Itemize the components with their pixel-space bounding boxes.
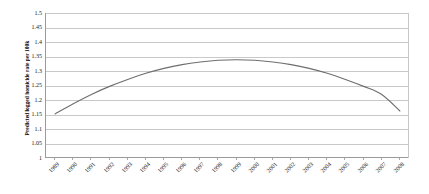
y-axis-tick-label: 1.5 <box>26 10 42 17</box>
y-axis-tick-label: 1.35 <box>26 53 42 60</box>
x-axis-tick-mark <box>290 158 291 160</box>
y-axis-tick-labels: 11.051.11.151.21.251.31.351.41.451.5 <box>26 0 42 194</box>
line-series-svg <box>46 13 409 158</box>
y-axis-tick-label: 1.4 <box>26 39 42 46</box>
y-axis-tick-label: 1 <box>26 155 42 162</box>
x-axis-tick-mark <box>344 158 345 160</box>
x-axis-tick-mark <box>199 158 200 160</box>
line-series-path <box>55 60 400 114</box>
x-axis-tick-mark <box>326 158 327 160</box>
x-axis-tick-mark <box>399 158 400 160</box>
y-axis-tick-label: 1.15 <box>26 111 42 118</box>
x-axis-tick-mark <box>72 158 73 160</box>
x-axis-tick-mark <box>181 158 182 160</box>
x-axis-tick-mark <box>217 158 218 160</box>
x-axis-tick-mark <box>272 158 273 160</box>
x-axis-tick-mark <box>163 158 164 160</box>
x-axis-tick-mark <box>145 158 146 160</box>
y-axis-tick-label: 1.3 <box>26 68 42 75</box>
x-axis-tick-labels: 1989199019911992199319941995199619971998… <box>45 158 408 194</box>
y-axis-tick-label: 1.45 <box>26 24 42 31</box>
x-axis-tick-mark <box>236 158 237 160</box>
chart-container: Predicted logged homicide rate per 100k … <box>0 0 429 194</box>
x-axis-tick-mark <box>127 158 128 160</box>
x-axis-tick-mark <box>90 158 91 160</box>
y-axis-tick-label: 1.1 <box>26 126 42 133</box>
x-axis-tick-mark <box>308 158 309 160</box>
x-axis-tick-mark <box>254 158 255 160</box>
y-axis-tick-label: 1.05 <box>26 140 42 147</box>
x-axis-tick-mark <box>381 158 382 160</box>
x-axis-tick-mark <box>363 158 364 160</box>
y-axis-tick-label: 1.25 <box>26 82 42 89</box>
x-axis-tick-mark <box>54 158 55 160</box>
x-axis-tick-mark <box>109 158 110 160</box>
y-axis-tick-label: 1.2 <box>26 97 42 104</box>
plot-area <box>45 13 408 158</box>
